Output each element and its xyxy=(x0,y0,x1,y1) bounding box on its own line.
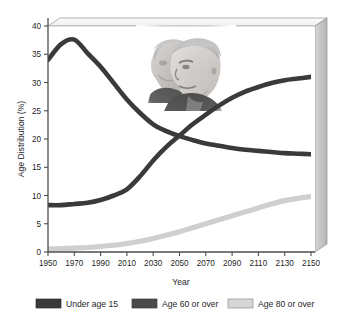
x-tick-label: 1970 xyxy=(65,259,84,268)
legend-label: Under age 15 xyxy=(66,299,118,309)
panel-right-wall xyxy=(315,18,327,252)
legend-swatch xyxy=(228,299,253,308)
x-axis-tick-labels: 1950 1970 1990 2010 2030 2050 2070 2090 … xyxy=(39,259,321,268)
y-axis-title: Age Distribution (%) xyxy=(16,101,26,178)
y-tick-label: 10 xyxy=(32,192,42,201)
age-distribution-line-chart: 0 5 10 15 20 25 30 35 40 1950 1 xyxy=(0,0,343,323)
y-tick-label: 25 xyxy=(32,107,42,116)
x-tick-label: 1990 xyxy=(91,259,110,268)
x-tick-label: 2090 xyxy=(223,259,242,268)
y-tick-label: 35 xyxy=(32,50,42,59)
legend-label: Age 60 or over xyxy=(162,299,219,309)
chart-legend: Under age 15 Age 60 or over Age 80 or ov… xyxy=(36,299,315,309)
x-tick-label: 2150 xyxy=(302,259,321,268)
chart-figure: 0 5 10 15 20 25 30 35 40 1950 1 xyxy=(0,0,343,323)
x-tick-label: 1950 xyxy=(39,259,58,268)
y-tick-label: 30 xyxy=(32,79,42,88)
x-tick-label: 2050 xyxy=(170,259,189,268)
legend-swatch xyxy=(132,299,157,308)
x-tick-label: 2130 xyxy=(276,259,295,268)
x-axis-title: Year xyxy=(172,277,190,287)
x-tick-label: 2030 xyxy=(144,259,163,268)
y-tick-label: 15 xyxy=(32,163,42,172)
y-tick-label: 5 xyxy=(36,220,41,229)
panel-top-face xyxy=(48,18,327,26)
legend-item-under-age-15: Under age 15 xyxy=(36,299,118,309)
y-axis-tick-labels: 0 5 10 15 20 25 30 35 40 xyxy=(32,22,42,257)
legend-swatch xyxy=(36,299,61,308)
y-tick-label: 0 xyxy=(36,248,41,257)
y-tick-label: 20 xyxy=(32,135,42,144)
y-tick-label: 40 xyxy=(32,22,42,31)
x-tick-label: 2110 xyxy=(250,259,268,268)
legend-label: Age 80 or over xyxy=(258,299,315,309)
legend-item-age-80-or-over: Age 80 or over xyxy=(228,299,315,309)
legend-item-age-60-or-over: Age 60 or over xyxy=(132,299,219,309)
x-tick-label: 2010 xyxy=(118,259,137,268)
x-tick-label: 2070 xyxy=(197,259,216,268)
